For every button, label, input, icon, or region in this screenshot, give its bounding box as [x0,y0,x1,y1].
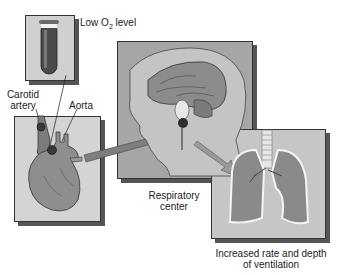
low-o2-label: Low O2 level [80,17,136,32]
ventilation-label: Increased rate and depth of ventilation [203,248,339,270]
low-o2-prefix: Low O [80,17,109,28]
resp-line2: center [140,201,208,212]
aortic-body-icon [48,146,57,155]
test-tube-icon [39,20,59,74]
diagram-artwork [0,0,341,275]
carotid-line2: artery [2,100,44,111]
ventilation-line1: Increased rate and depth [203,248,339,259]
respiratory-center-label: Respiratory center [140,190,208,212]
respiratory-center-icon [178,118,188,128]
head-icon [130,48,246,176]
heart-icon [29,116,82,211]
low-o2-suffix: level [113,17,136,28]
aorta-label: Aorta [66,100,96,111]
carotid-line1: Carotid [2,89,44,100]
lungs-icon [230,130,308,223]
ventilation-line2: of ventilation [203,259,339,270]
carotid-body-icon [37,123,45,131]
resp-line1: Respiratory [140,190,208,201]
carotid-artery-label: Carotid artery [2,89,44,111]
